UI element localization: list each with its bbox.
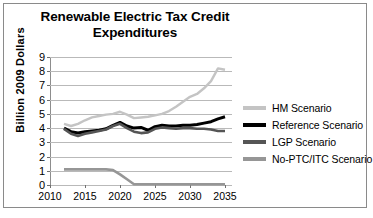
x-tick-label: 2010: [38, 190, 61, 202]
y-tick-label: 8: [39, 65, 45, 77]
x-tick-label: 2020: [108, 190, 131, 202]
series-line: [64, 169, 225, 184]
legend-item[interactable]: LGP Scenario: [243, 133, 369, 150]
legend-label: LGP Scenario: [272, 136, 336, 148]
series-lines: [50, 57, 232, 185]
legend-swatch-icon: [243, 106, 266, 110]
x-tick-mark: [120, 185, 121, 188]
chart-title-line-2: Expenditures: [20, 25, 250, 41]
legend-item[interactable]: No-PTC/ITC Scenario: [243, 150, 369, 167]
legend-item[interactable]: HM Scenario: [243, 99, 369, 116]
legend-label: HM Scenario: [272, 102, 332, 114]
legend-swatch-icon: [243, 123, 266, 127]
y-tick-label: 9: [39, 51, 45, 63]
y-tick-label: 2: [39, 151, 45, 163]
x-tick-mark: [85, 185, 86, 188]
chart-title: Renewable Electric Tax Credit Expenditur…: [20, 9, 250, 40]
x-tick-label: 2030: [178, 190, 201, 202]
chart-figure: Renewable Electric Tax Credit Expenditur…: [0, 0, 373, 218]
legend-swatch-icon: [243, 157, 266, 161]
x-tick-mark: [50, 185, 51, 188]
plot-area: 0123456789 201020152020202520302035: [50, 57, 232, 185]
x-tick-label: 2035: [213, 190, 236, 202]
y-tick-label: 6: [39, 94, 45, 106]
legend-label: Reference Scenario: [272, 119, 363, 131]
y-axis-label: Billion 2009 Dollars: [14, 15, 26, 145]
y-tick-label: 5: [39, 108, 45, 120]
y-tick-label: 7: [39, 79, 45, 91]
series-line: [64, 68, 225, 126]
x-tick-label: 2025: [143, 190, 166, 202]
legend-label: No-PTC/ITC Scenario: [272, 153, 372, 165]
y-tick-label: 4: [39, 122, 45, 134]
x-tick-mark: [225, 185, 226, 188]
x-tick-label: 2015: [73, 190, 96, 202]
y-tick-label: 3: [39, 136, 45, 148]
chart-legend: HM ScenarioReference ScenarioLGP Scenari…: [243, 99, 369, 167]
y-tick-label: 1: [39, 165, 45, 177]
legend-item[interactable]: Reference Scenario: [243, 116, 369, 133]
legend-swatch-icon: [243, 140, 266, 144]
chart-title-line-1: Renewable Electric Tax Credit: [20, 9, 250, 25]
